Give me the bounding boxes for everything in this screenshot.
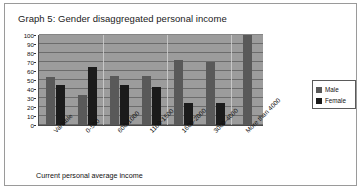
y-tick-mark [34,62,36,63]
bar-group [135,35,167,125]
y-tick-mark [34,89,36,90]
x-axis-title: Current personal average income [36,171,143,180]
legend-label: Female [325,97,346,104]
y-tick-mark [34,125,36,126]
bar-male [142,76,151,126]
y-tick-label: 80 [27,50,34,57]
x-axis: Variable0-500600-10001100-15001600-20003… [38,126,270,168]
chart-title: Graph 5: Gender disaggregated personal i… [18,13,227,24]
y-tick-label: 100 [24,32,34,39]
legend-item: Female [316,95,355,106]
y-tick-mark [34,98,36,99]
y-tick-mark [34,35,36,36]
y-tick-label: 30 [27,95,34,102]
y-tick-mark [34,53,36,54]
bar-male [78,95,87,125]
y-tick-mark [34,107,36,108]
y-tick-mark [34,116,36,117]
y-axis: 1009080706050403020100 [15,29,36,132]
y-tick-label: 10 [27,113,34,120]
y-tick-label: 70 [27,59,34,66]
bar-male [206,62,215,125]
y-tick-label: 50 [27,77,34,84]
y-tick-mark [34,80,36,81]
bar-male [243,35,252,125]
chart-figure: Graph 5: Gender disaggregated personal i… [0,0,361,189]
bar-group [103,35,135,125]
y-tick-mark [34,44,36,45]
y-tick-label: 40 [27,86,34,93]
bar-group [39,35,71,125]
bar-male [46,77,55,125]
y-tick-label: 60 [27,68,34,75]
y-tick-mark [34,71,36,72]
bar-male [110,76,119,126]
figure-frame: Graph 5: Gender disaggregated personal i… [4,3,357,186]
bar-group [71,35,103,125]
legend: MaleFemale [312,80,356,109]
legend-swatch-icon [316,98,322,104]
legend-swatch-icon [316,87,322,93]
y-tick-label: 90 [27,41,34,48]
legend-label: Male [325,86,339,93]
y-tick-label: 20 [27,104,34,111]
legend-item: Male [316,84,355,95]
bar-male [174,60,183,125]
